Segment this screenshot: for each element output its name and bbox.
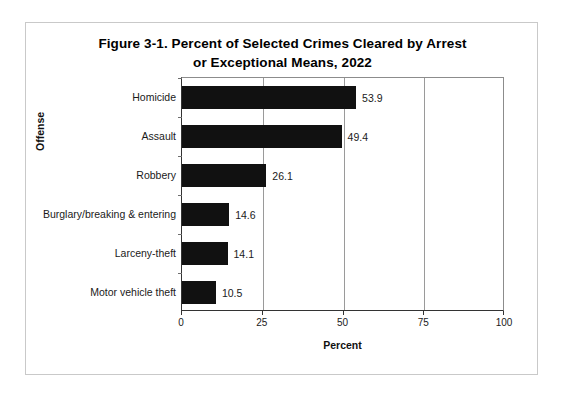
- bar-value-label: 14.1: [228, 248, 254, 260]
- bar: [182, 86, 356, 109]
- category-label: Robbery: [26, 169, 176, 181]
- x-axis-tick-label: 50: [337, 317, 348, 328]
- bar-value-label: 14.6: [229, 209, 255, 221]
- bar-value-label: 26.1: [266, 170, 292, 182]
- x-axis-tick-25: [262, 311, 263, 315]
- chart-title-line-1: Figure 3-1. Percent of Selected Crimes C…: [26, 34, 539, 53]
- bar: [182, 203, 229, 226]
- y-axis-tick: [178, 195, 182, 196]
- x-axis-tick-label: 0: [178, 317, 184, 328]
- x-axis-title: Percent: [181, 339, 504, 351]
- x-axis-tick-label: 75: [418, 317, 429, 328]
- bar-row: 49.4: [182, 125, 505, 148]
- y-axis-tick: [178, 117, 182, 118]
- category-axis-labels: HomicideAssaultRobberyBurglary/breaking …: [26, 77, 176, 311]
- y-axis-tick: [178, 78, 182, 79]
- bar: [182, 164, 266, 187]
- x-axis-tick-label: 25: [256, 317, 267, 328]
- y-axis-tick: [178, 273, 182, 274]
- chart-title: Figure 3-1. Percent of Selected Crimes C…: [26, 34, 539, 72]
- category-label: Homicide: [26, 91, 176, 103]
- x-axis-tick-label: 100: [496, 317, 513, 328]
- bar-value-label: 49.4: [342, 131, 368, 143]
- bar-value-label: 53.9: [356, 92, 382, 104]
- y-axis-tick: [178, 156, 182, 157]
- x-axis-ticks: [181, 311, 504, 316]
- x-axis-tick-75: [423, 311, 424, 315]
- plot-area: 53.949.426.114.614.110.5: [181, 77, 504, 311]
- bar-row: 10.5: [182, 281, 505, 304]
- category-label: Larceny-theft: [26, 247, 176, 259]
- bar-row: 14.6: [182, 203, 505, 226]
- bar-row: 53.9: [182, 86, 505, 109]
- bar: [182, 125, 342, 148]
- gridline-x-25: [263, 78, 264, 310]
- category-label: Burglary/breaking & entering: [26, 208, 176, 220]
- gridline-x-75: [424, 78, 425, 310]
- bar: [182, 242, 228, 265]
- bar-row: 26.1: [182, 164, 505, 187]
- bar-row: 14.1: [182, 242, 505, 265]
- x-axis-tick-100: [503, 311, 504, 315]
- category-label: Motor vehicle theft: [26, 286, 176, 298]
- chart-title-line-2: or Exceptional Means, 2022: [26, 53, 539, 72]
- y-axis-tick: [178, 234, 182, 235]
- category-label: Assault: [26, 130, 176, 142]
- x-axis-tick-0: [181, 311, 182, 315]
- figure-frame: Figure 3-1. Percent of Selected Crimes C…: [25, 22, 538, 375]
- x-axis-tick-labels: 0255075100: [181, 317, 504, 331]
- x-axis-tick-50: [343, 311, 344, 315]
- bar: [182, 281, 216, 304]
- bar-value-label: 10.5: [216, 287, 242, 299]
- gridline-x-50: [344, 78, 345, 310]
